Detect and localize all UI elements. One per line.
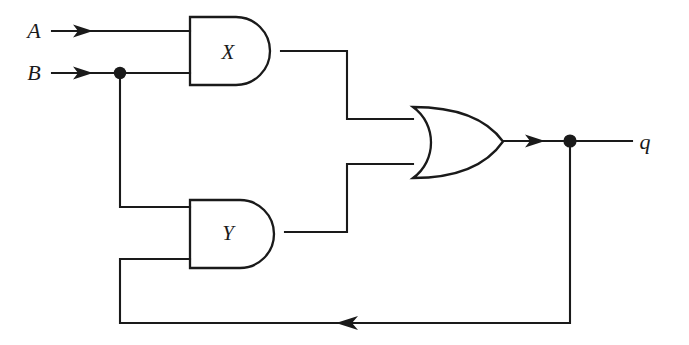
arrowhead-layer: [73, 25, 545, 331]
input-label-b: B: [27, 60, 40, 85]
gate-label-x: X: [221, 40, 236, 64]
wire-b-tap-to-y-gate: [120, 73, 190, 207]
wire-layer: [52, 31, 632, 323]
wire-x-gate-to-or-gate: [281, 51, 413, 119]
or-gate-body: [413, 107, 503, 178]
gate-label-y: Y: [222, 221, 236, 245]
junction-dot-b-tap: [114, 67, 126, 79]
junction-layer: [114, 67, 577, 148]
junction-dot-q-tap: [563, 134, 576, 147]
input-label-a: A: [25, 18, 41, 43]
circuit-canvas: A B X Y q: [0, 0, 689, 345]
logic-circuit-figure: A B X Y q: [0, 0, 689, 345]
output-label-q: q: [640, 129, 651, 154]
wire-y-gate-to-or-gate: [285, 164, 413, 232]
